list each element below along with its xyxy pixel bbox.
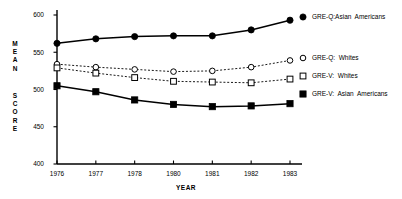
chart-axes xyxy=(54,10,303,164)
chart-series xyxy=(54,17,293,110)
chart-container: M E A N S C O R E 600 550 500 450 400 19… xyxy=(0,0,402,199)
chart-plot-area xyxy=(0,0,402,199)
legend-markers xyxy=(300,14,306,97)
